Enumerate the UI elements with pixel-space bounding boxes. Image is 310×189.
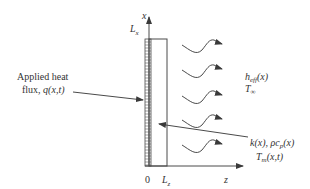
applied-heat-label: Applied heat (17, 71, 69, 82)
width-label: Lz (161, 174, 171, 188)
height-label: Lx (129, 23, 140, 37)
tinf-label: T∞ (245, 83, 256, 96)
heater-strip (145, 39, 151, 166)
heat-transfer-diagram: x z 0 Lx Lz Applied heat flux, q(x,t) he… (0, 0, 310, 189)
origin-label: 0 (145, 174, 150, 185)
flux-label: flux, q(x,t) (22, 84, 65, 96)
convection-arrows (182, 40, 222, 153)
wavy-arrow-icon (182, 40, 222, 53)
wavy-arrow-icon (182, 91, 222, 104)
property-label: k(x), ρcp(x) (250, 137, 295, 150)
wavy-arrow-icon (182, 140, 222, 153)
wavy-arrow-icon (182, 115, 222, 128)
property-leader (159, 124, 248, 137)
slab (149, 39, 167, 166)
wavy-arrow-icon (182, 65, 222, 78)
flux-leader (73, 92, 143, 100)
z-axis-label: z (223, 174, 228, 185)
tm-label: Tm(x,t) (256, 151, 284, 164)
x-axis-label: x (141, 10, 147, 21)
